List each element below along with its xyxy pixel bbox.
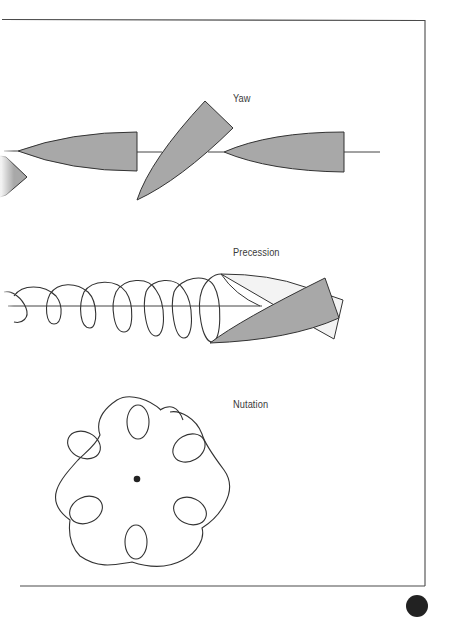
precession-spiral [4,274,221,342]
yaw-projectile-partial-left [0,156,27,197]
page-marker-dot [406,595,428,617]
yaw-projectile-aligned-2 [224,132,344,172]
nutation-loop-top [127,405,149,439]
yaw-diagram [0,101,380,200]
nutation-loop-lower-left [65,491,107,529]
nutation-loop-bottom [125,525,147,559]
yaw-projectile-aligned-1 [18,132,137,171]
nutation-diagram [55,397,229,567]
precession-label: Precession [233,246,280,258]
yaw-projectile-yawed [137,101,233,200]
precession-diagram [4,274,343,343]
nutation-loop-lower-right [169,492,211,530]
nutation-path-tail [160,407,183,420]
nutation-loop-upper-right [168,428,210,468]
nutation-rosette-path [55,397,229,567]
nutation-center-dot [134,476,141,483]
figure-frame [2,20,425,587]
yaw-label: Yaw [233,92,251,104]
nutation-label: Nutation [233,398,268,410]
